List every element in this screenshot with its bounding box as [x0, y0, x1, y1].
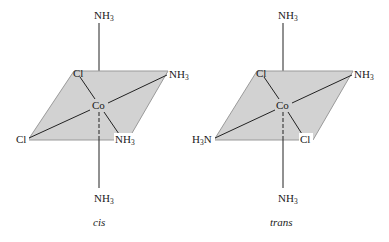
- ligand-bottom: NH3: [94, 192, 114, 206]
- ligand-front-right: Cl: [300, 133, 310, 145]
- trans-isomer: NH3 Cl NH3 Co H3N Cl NH3 trans: [191, 9, 374, 228]
- ligand-back-right: NH3: [354, 68, 374, 82]
- diagram-canvas: NH3 Cl NH3 Co Cl NH3 NH3 cis NH3 Cl NH3 …: [0, 0, 389, 242]
- ligand-back-right: NH3: [169, 68, 189, 82]
- ligand-back-left: Cl: [73, 67, 83, 79]
- center-atom: Co: [92, 99, 105, 111]
- cis-isomer: NH3 Cl NH3 Co Cl NH3 NH3 cis: [15, 9, 189, 228]
- caption-cis: cis: [93, 216, 105, 228]
- ligand-bottom: NH3: [278, 192, 298, 206]
- center-atom: Co: [276, 99, 289, 111]
- ligand-top: NH3: [278, 9, 298, 23]
- ligand-front-left: Cl: [16, 133, 26, 145]
- caption-trans: trans: [270, 216, 293, 228]
- ligand-back-left: Cl: [256, 67, 266, 79]
- ligand-top: NH3: [94, 9, 114, 23]
